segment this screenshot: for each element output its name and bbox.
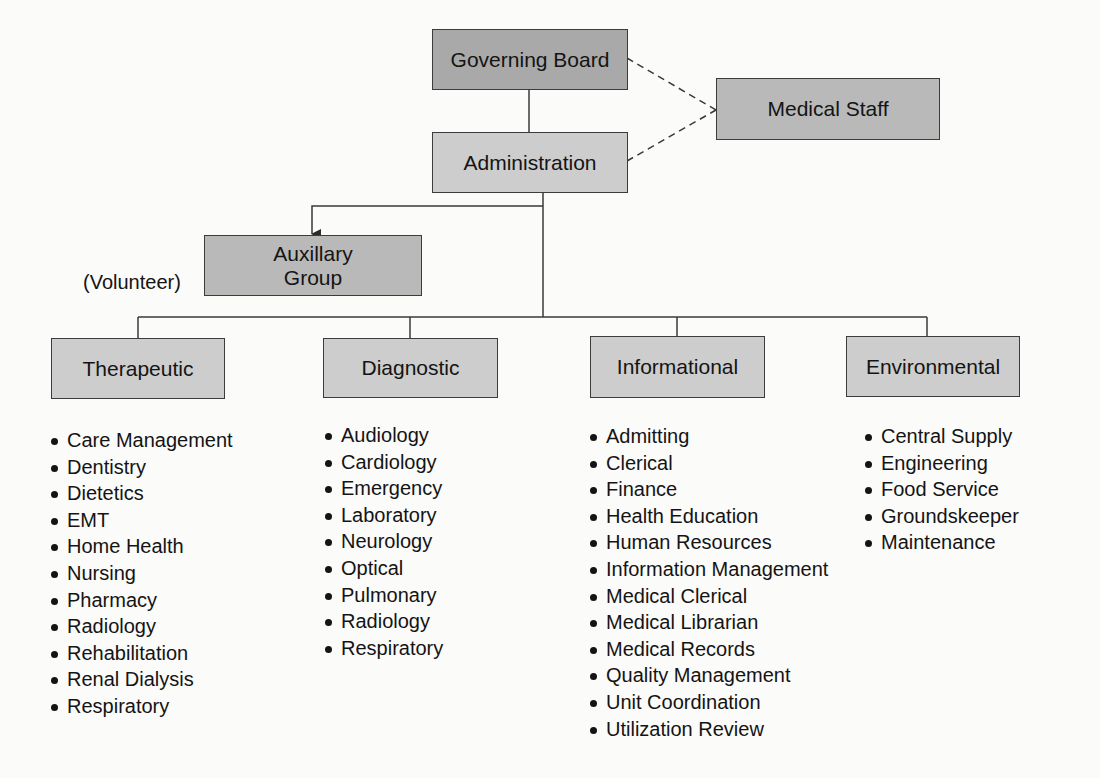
service-item: Nursing xyxy=(51,560,233,587)
service-item: Dietetics xyxy=(51,480,233,507)
service-item: Home Health xyxy=(51,533,233,560)
admin-to-auxillary-arrow xyxy=(312,206,543,234)
service-item: Pharmacy xyxy=(51,587,233,614)
board-to-medical-staff-dashed xyxy=(627,58,716,110)
auxillary-group-box: Auxillary Group xyxy=(204,235,422,296)
volunteer-note: (Volunteer) xyxy=(83,271,181,294)
service-item: Health Education xyxy=(590,503,828,530)
service-item: Medical Records xyxy=(590,636,828,663)
department-box-therapeutic: Therapeutic xyxy=(51,338,225,399)
admin-to-medical-staff-dashed xyxy=(627,110,716,161)
department-label: Therapeutic xyxy=(83,357,194,381)
medical-staff-box: Medical Staff xyxy=(716,78,940,140)
auxillary-label-line1: Auxillary xyxy=(273,242,352,266)
service-item: Pulmonary xyxy=(325,582,443,609)
service-item: Medical Librarian xyxy=(590,609,828,636)
service-item: Audiology xyxy=(325,422,443,449)
service-item: Respiratory xyxy=(51,693,233,720)
service-item: Care Management xyxy=(51,427,233,454)
service-item: Neurology xyxy=(325,528,443,555)
department-box-environmental: Environmental xyxy=(846,336,1020,397)
department-label: Environmental xyxy=(866,355,1000,379)
service-item: Quality Management xyxy=(590,662,828,689)
service-item: Engineering xyxy=(865,450,1019,477)
service-item: EMT xyxy=(51,507,233,534)
service-item: Cardiology xyxy=(325,449,443,476)
service-item: Radiology xyxy=(325,608,443,635)
service-item: Groundskeeper xyxy=(865,503,1019,530)
service-item: Dentistry xyxy=(51,454,233,481)
service-item: Clerical xyxy=(590,450,828,477)
service-item: Food Service xyxy=(865,476,1019,503)
department-label: Informational xyxy=(617,355,738,379)
service-item: Admitting xyxy=(590,423,828,450)
department-box-informational: Informational xyxy=(590,336,765,398)
auxillary-label-line2: Group xyxy=(284,266,342,290)
service-item: Rehabilitation xyxy=(51,640,233,667)
service-item: Unit Coordination xyxy=(590,689,828,716)
governing-board-label: Governing Board xyxy=(451,48,610,72)
service-item: Renal Dialysis xyxy=(51,666,233,693)
service-item: Finance xyxy=(590,476,828,503)
governing-board-box: Governing Board xyxy=(432,29,628,90)
service-item: Central Supply xyxy=(865,423,1019,450)
service-item: Maintenance xyxy=(865,529,1019,556)
medical-staff-label: Medical Staff xyxy=(767,97,888,121)
service-item: Medical Clerical xyxy=(590,583,828,610)
informational-services-list: AdmittingClericalFinanceHealth Education… xyxy=(590,423,828,742)
service-item: Emergency xyxy=(325,475,443,502)
service-item: Laboratory xyxy=(325,502,443,529)
service-item: Information Management xyxy=(590,556,828,583)
environmental-services-list: Central SupplyEngineeringFood ServiceGro… xyxy=(865,423,1019,556)
service-item: Respiratory xyxy=(325,635,443,662)
department-label: Diagnostic xyxy=(361,356,459,380)
service-item: Optical xyxy=(325,555,443,582)
service-item: Utilization Review xyxy=(590,716,828,743)
diagnostic-services-list: AudiologyCardiologyEmergencyLaboratoryNe… xyxy=(325,422,443,661)
service-item: Radiology xyxy=(51,613,233,640)
administration-box: Administration xyxy=(432,132,628,193)
therapeutic-services-list: Care ManagementDentistryDieteticsEMTHome… xyxy=(51,427,233,720)
service-item: Human Resources xyxy=(590,529,828,556)
department-box-diagnostic: Diagnostic xyxy=(323,338,498,398)
administration-label: Administration xyxy=(463,151,596,175)
